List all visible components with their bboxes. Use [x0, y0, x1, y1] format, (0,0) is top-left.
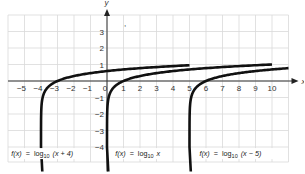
y-tick-label: −2: [95, 110, 105, 119]
x-tick-label: 6: [204, 84, 209, 93]
function-label: f(x)=log10(x − 5): [199, 149, 261, 159]
y-axis-label: y: [104, 0, 110, 7]
x-tick-label: −2: [66, 84, 76, 93]
x-tick-label: 9: [253, 84, 258, 93]
y-tick-label: −3: [95, 127, 105, 136]
y-tick-label: 3: [100, 28, 105, 37]
x-tick-label: 7: [220, 84, 225, 93]
x-tick-label: 4: [171, 84, 176, 93]
x-tick-label: −5: [17, 84, 27, 93]
x-tick-label: −4: [33, 84, 43, 93]
y-tick-label: −1: [95, 94, 105, 103]
x-tick-label: −1: [83, 84, 93, 93]
y-tick-label: 2: [100, 44, 105, 53]
x-tick-label: 3: [154, 84, 159, 93]
x-axis-arrow-icon: [292, 78, 299, 84]
stray-mark: ,: [124, 19, 126, 28]
x-tick-label: 1: [121, 84, 126, 93]
y-axis-arrow-icon: [104, 9, 110, 16]
x-tick-label: 5: [187, 84, 192, 93]
y-tick-label: 1: [100, 61, 105, 70]
x-tick-label: 0: [103, 84, 108, 93]
y-tick-label: −4: [95, 143, 105, 152]
function-labels: f(x)=log10(x + 4)f(x)=log10xf(x)=log10(x…: [9, 148, 275, 159]
x-tick-label: 8: [237, 84, 242, 93]
x-tick-label: 2: [138, 84, 143, 93]
x-tick-label: 10: [268, 84, 277, 93]
log-function-chart: xy, −5−4−3−2−1012345678910321−1−2−3−4 f(…: [0, 0, 304, 174]
function-label: f(x)=log10(x + 4): [11, 149, 73, 159]
tick-labels: −5−4−3−2−1012345678910321−1−2−3−4: [17, 28, 277, 153]
x-axis-label: x: [301, 77, 305, 86]
